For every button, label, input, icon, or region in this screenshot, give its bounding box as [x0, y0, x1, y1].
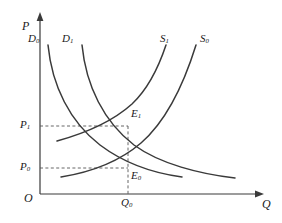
x-axis-label: Q [262, 198, 271, 210]
curve-label-s1: S1 [160, 33, 169, 45]
y-tick-label-p0: P0 [20, 161, 30, 173]
supply-curve-s1 [57, 45, 166, 141]
curve-label-d0: D0 [28, 33, 39, 45]
supply-demand-figure: P Q O P1 P0 Q0 D0 D1 S1 S0 E1 E0 [0, 0, 282, 223]
equilibrium-label-e1: E1 [131, 108, 141, 120]
x-tick-label-q0: Q0 [121, 197, 132, 209]
curve-label-s0: S0 [200, 33, 209, 45]
origin-label: O [24, 192, 33, 204]
y-axis-label: P [22, 20, 29, 32]
curve-label-d1: D1 [62, 33, 73, 45]
supply-curve-s0 [61, 45, 196, 177]
equilibrium-label-e0: E0 [131, 170, 141, 182]
demand-curve-d0 [48, 45, 182, 177]
y-axis-arrowhead [37, 12, 44, 21]
y-tick-label-p1: P1 [20, 119, 30, 131]
